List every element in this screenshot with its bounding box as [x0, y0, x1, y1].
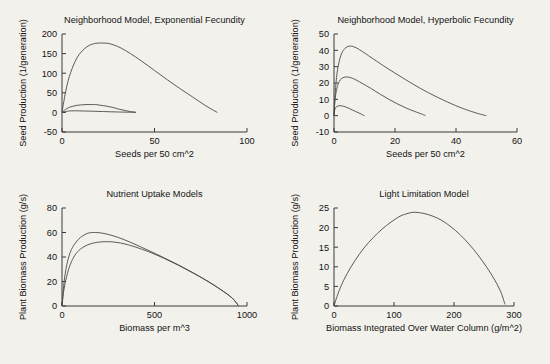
- y-tick-label: 10: [319, 262, 329, 272]
- y-tick-label: -50: [44, 127, 57, 137]
- chart-title: Light Limitation Model: [379, 189, 468, 199]
- y-tick-label: 30: [319, 62, 329, 72]
- data-curve: [334, 212, 505, 306]
- data-curve: [334, 106, 365, 116]
- y-tick-label: 0: [52, 108, 57, 118]
- y-axis-label: Plant Biomass Production (g/s): [290, 194, 300, 320]
- y-tick-label: 60: [47, 228, 57, 238]
- x-tick-label: 50: [149, 136, 159, 146]
- x-tick-label: 300: [506, 310, 521, 320]
- x-tick-label: 40: [451, 136, 461, 146]
- x-tick-label: 500: [147, 310, 162, 320]
- y-tick-label: 0: [52, 301, 57, 311]
- axis-spines: [334, 208, 514, 306]
- x-tick-label: 60: [512, 136, 522, 146]
- chart-panel-nutrient-uptake: Nutrient Uptake Models02040608005001000B…: [0, 182, 275, 364]
- x-tick-label: 200: [446, 310, 461, 320]
- x-tick-label: 0: [331, 136, 336, 146]
- chart-title: Neighborhood Model, Exponential Fecundit…: [64, 15, 245, 25]
- y-tick-label: 20: [47, 277, 57, 287]
- x-tick-label: 100: [386, 310, 401, 320]
- y-tick-label: 0: [324, 301, 329, 311]
- y-axis-label: Seed Production (1/generation): [290, 19, 300, 147]
- y-tick-label: 150: [42, 49, 57, 59]
- x-tick-label: 0: [331, 310, 336, 320]
- x-tick-label: 100: [239, 136, 254, 146]
- chart-panel-neighborhood-exponential: Neighborhood Model, Exponential Fecundit…: [0, 4, 275, 182]
- figure-canvas: Neighborhood Model, Exponential Fecundit…: [0, 0, 550, 364]
- y-axis-label: Seed Production (1/generation): [18, 19, 28, 147]
- y-tick-label: 40: [319, 46, 329, 56]
- y-tick-label: 50: [47, 88, 57, 98]
- y-tick-label: 100: [42, 69, 57, 79]
- y-tick-label: 40: [47, 252, 57, 262]
- data-curve: [62, 43, 217, 112]
- x-axis-label: Seeds per 50 cm^2: [386, 149, 465, 159]
- x-axis-label: Biomass per m^3: [119, 323, 190, 333]
- chart-title: Nutrient Uptake Models: [106, 189, 202, 199]
- y-tick-label: 5: [324, 282, 329, 292]
- y-tick-label: 25: [319, 203, 329, 213]
- y-tick-label: 10: [319, 95, 329, 105]
- y-tick-label: 200: [42, 29, 57, 39]
- axis-spines: [62, 208, 247, 306]
- y-tick-label: 0: [324, 111, 329, 121]
- x-tick-label: 20: [390, 136, 400, 146]
- y-tick-label: -10: [316, 127, 329, 137]
- y-tick-label: 15: [319, 243, 329, 253]
- y-tick-label: 20: [319, 78, 329, 88]
- axis-spines: [62, 34, 247, 132]
- y-tick-label: 80: [47, 203, 57, 213]
- y-tick-label: 50: [319, 29, 329, 39]
- x-axis-label: Biomass Integrated Over Water Column (g/…: [326, 323, 522, 333]
- data-curve: [62, 232, 239, 306]
- chart-panel-neighborhood-hyperbolic: Neighborhood Model, Hyperbolic Fecundity…: [272, 4, 550, 182]
- chart-title: Neighborhood Model, Hyperbolic Fecundity: [337, 15, 514, 25]
- x-tick-label: 0: [59, 310, 64, 320]
- data-curve: [62, 111, 136, 113]
- data-curve: [334, 77, 426, 116]
- x-tick-label: 1000: [237, 310, 257, 320]
- y-tick-label: 20: [319, 223, 329, 233]
- chart-panel-light-limitation: Light Limitation Model051015202501002003…: [272, 182, 550, 364]
- y-axis-label: Plant Biomass Production (g/s): [18, 194, 28, 320]
- x-axis-label: Seeds per 50 cm^2: [115, 149, 194, 159]
- x-tick-label: 0: [59, 136, 64, 146]
